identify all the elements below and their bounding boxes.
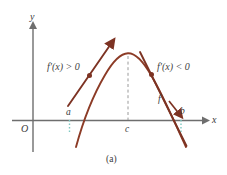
- tangency-point-right: [149, 72, 154, 77]
- point-label-a: a: [66, 108, 71, 118]
- x-axis-label: x: [212, 115, 216, 125]
- figure-caption: (a): [106, 155, 117, 165]
- figure-canvas: [0, 0, 227, 175]
- origin-label: O: [21, 124, 28, 134]
- calculus-figure: y x O a c b f f'(x) > 0 f'(x) < 0 (a): [0, 0, 227, 175]
- point-label-b: b: [180, 107, 185, 117]
- tangency-point-left: [87, 73, 92, 78]
- y-axis-label: y: [30, 12, 34, 22]
- function-label-f: f: [158, 95, 161, 105]
- point-label-c: c: [125, 125, 129, 135]
- annotation-derivative-negative: f'(x) < 0: [157, 62, 190, 72]
- annotation-derivative-positive: f'(x) > 0: [47, 62, 80, 72]
